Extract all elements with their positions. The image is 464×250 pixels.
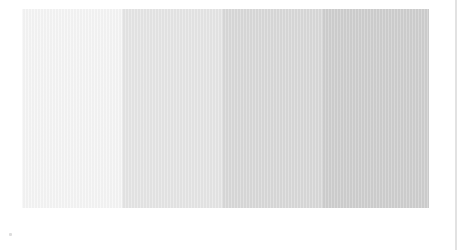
gray-swatch-strip	[22, 9, 429, 208]
swatch-dark	[322, 9, 429, 208]
swatch-medium	[222, 9, 322, 208]
small-marker-icon	[9, 233, 12, 236]
vertical-divider-line	[455, 0, 457, 250]
swatch-lightest	[22, 9, 122, 208]
swatch-light	[122, 9, 222, 208]
